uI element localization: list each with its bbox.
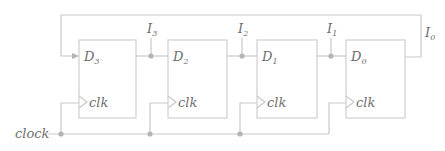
clk-wire-3 <box>61 103 79 134</box>
junction-dot <box>147 131 152 136</box>
i0-label: I0 <box>424 25 435 42</box>
i3-label: I3 <box>146 21 157 38</box>
clk-wire-2 <box>150 103 168 134</box>
arrow-icon <box>72 53 79 59</box>
clk-label: clk <box>178 95 197 110</box>
i2-label: I2 <box>237 21 248 38</box>
junction-dot <box>58 131 63 136</box>
clk-label: clk <box>89 95 108 110</box>
clk-wire-1 <box>240 103 257 134</box>
shift-register-diagram: D3 D2 D1 D0 clk clk clk clk I3 I2 I1 I0 … <box>0 0 445 151</box>
i1-label: I1 <box>326 21 337 38</box>
junction-dot <box>239 53 244 58</box>
clk-label: clk <box>356 95 375 110</box>
clk-wire-0 <box>329 103 346 134</box>
junction-dot <box>237 131 242 136</box>
junction-dot <box>148 53 153 58</box>
junction-dot <box>328 53 333 58</box>
clk-label: clk <box>267 95 286 110</box>
clock-label: clock <box>15 126 50 141</box>
